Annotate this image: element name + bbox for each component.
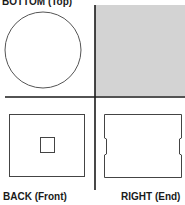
orthographic-diagram [0,0,185,205]
back-view-rectangle [10,115,85,177]
shaded-quadrant [95,5,185,96]
right-view-notched-rectangle [105,115,182,178]
label-right-end: RIGHT (End) [121,192,180,202]
back-view-inner-square [41,138,55,153]
label-back-front: BACK (Front) [3,192,67,202]
bottom-view-circle [5,12,81,88]
